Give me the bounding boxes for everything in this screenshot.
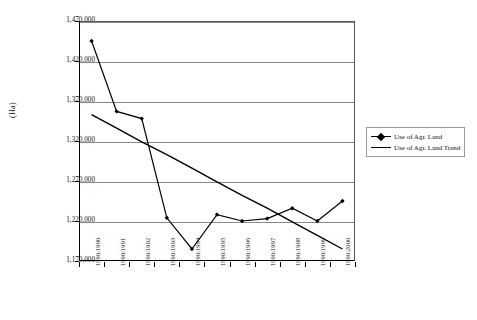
x-axis-tick-mark [280, 262, 281, 267]
series-svg [79, 21, 355, 261]
x-axis-tick-label: 1990:1990 [95, 238, 101, 266]
data-point-marker [114, 109, 118, 113]
x-axis-tick-label: 1990:1998 [295, 238, 301, 266]
data-point-marker [140, 116, 144, 120]
chart-container: (Ha) 1,470,0001,420,0001,370,0001,320,00… [0, 0, 477, 320]
x-axis-tick-mark [154, 262, 155, 267]
x-axis-tick-label: 1990:1993 [170, 238, 176, 266]
y-axis-title: (Ha) [8, 58, 17, 118]
chart-legend: Use of Agr. Land Use of Agr. Land Trend [366, 127, 465, 157]
x-axis-tick-mark [355, 262, 356, 267]
x-axis-tick-label: 1990:2000 [345, 238, 351, 266]
legend-item-use-of-agr-land: Use of Agr. Land [370, 131, 460, 142]
x-axis-tick-label: 1990:1992 [145, 238, 151, 266]
x-axis-tick-mark [79, 262, 80, 267]
y-axis-title-text: (Ha) [8, 102, 17, 118]
data-point-marker [290, 206, 294, 210]
data-point-marker [265, 216, 269, 220]
x-axis-tick-label: 1990:1999 [320, 238, 326, 266]
data-line-path [92, 41, 343, 249]
x-axis-tick-mark [330, 262, 331, 267]
x-axis-tick-label: 1990:1997 [270, 238, 276, 266]
x-axis-tick-mark [204, 262, 205, 267]
data-point-marker [240, 219, 244, 223]
legend-marker-line-icon [370, 132, 392, 142]
x-axis-tick-label: 1990:1991 [120, 238, 126, 266]
data-marker-group [89, 39, 344, 251]
x-axis-tick-mark [104, 262, 105, 267]
x-axis-tick-label: 1990:1994 [195, 238, 201, 266]
legend-line-icon [370, 143, 392, 153]
x-axis-tick-mark [230, 262, 231, 267]
legend-item-use-of-agr-land-trend: Use of Agr. Land Trend [370, 142, 460, 153]
x-axis-tick-mark [179, 262, 180, 267]
x-axis-tick-mark [305, 262, 306, 267]
trend-line-path [92, 115, 343, 249]
x-axis-tick-label: 1990:1996 [245, 238, 251, 266]
x-axis-tick-mark [129, 262, 130, 267]
x-axis-tick-label: 1990:1995 [220, 238, 226, 266]
legend-item-label: Use of Agr. Land Trend [392, 144, 460, 152]
data-point-marker [89, 39, 93, 43]
x-axis-tick-mark [255, 262, 256, 267]
legend-item-label: Use of Agr. Land [392, 133, 442, 141]
